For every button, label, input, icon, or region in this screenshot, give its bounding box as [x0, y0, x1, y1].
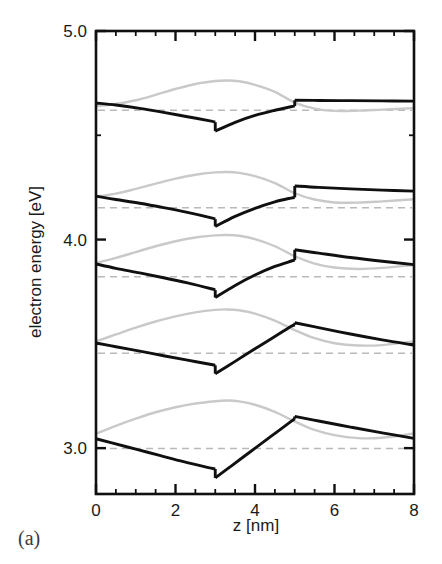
- y-tick-label: 3.0: [63, 439, 87, 458]
- x-tick-label: 8: [409, 501, 418, 520]
- panel-label: (a): [18, 527, 40, 550]
- x-tick-label: 6: [330, 501, 339, 520]
- y-axis-title: electron energy [eV]: [26, 186, 45, 338]
- band-diagram-plot: 02468 3.04.05.0 z [nm] electron energy […: [0, 0, 442, 564]
- plot-background: [0, 0, 442, 564]
- x-tick-label: 2: [171, 501, 180, 520]
- y-tick-label: 4.0: [63, 231, 87, 250]
- y-tick-label: 5.0: [63, 22, 87, 41]
- figure-panel-a: 02468 3.04.05.0 z [nm] electron energy […: [0, 0, 442, 564]
- x-axis-title: z [nm]: [233, 516, 279, 535]
- x-tick-label: 0: [91, 501, 100, 520]
- band-edge-segment: [295, 100, 414, 101]
